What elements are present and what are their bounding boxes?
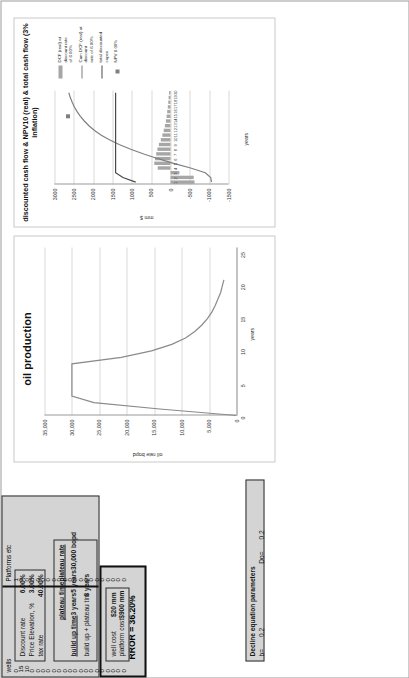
table-cell[interactable]: 0 <box>77 496 82 581</box>
x-axis-tick: 1 <box>172 181 177 183</box>
table-cell[interactable]: 0 <box>66 496 71 581</box>
x-axis-tick: 10 <box>172 137 177 141</box>
decline-do-value[interactable]: 0.2 <box>257 530 264 539</box>
table-cell[interactable]: 0 <box>82 496 87 581</box>
legend-item: DCF (real) at discount rate of 6.00% <box>56 20 73 78</box>
table-cell[interactable]: 0 <box>61 587 66 672</box>
x-axis-tick: 4 <box>172 167 177 169</box>
table-cell[interactable]: 0 <box>82 587 87 672</box>
x-axis-label: years <box>242 132 248 145</box>
rotated-spreadsheet-canvas: Discount rate 6.00% Price Elevation, % 3… <box>0 0 409 678</box>
table-cell[interactable]: 0 <box>87 587 92 672</box>
legend-swatch-line2 <box>98 65 105 78</box>
table-column-wells: wells 01510000000000000000000 <box>2 585 98 676</box>
oil-rate-series <box>14 234 276 461</box>
legend-label: total discounted capex <box>97 20 108 62</box>
cashflow-chart-plot: 300025002000150010005000-500-1000-1500mm… <box>14 18 274 226</box>
table-cell[interactable]: 0 <box>55 496 60 581</box>
x-axis-tick: 8 <box>172 149 177 151</box>
table-cell[interactable]: 0 <box>93 496 98 581</box>
table-cell[interactable]: 0 <box>114 496 119 581</box>
table-cell[interactable]: 0 <box>44 587 49 672</box>
oil-production-chart[interactable]: oil production 35,00030,00025,00020,0001… <box>13 235 275 462</box>
x-axis-tick: 12 <box>172 128 177 132</box>
table-cell[interactable]: 0 <box>87 496 92 581</box>
table-cell[interactable]: 0 <box>28 496 33 581</box>
table-cell[interactable]: 0 <box>120 587 125 672</box>
table-cell[interactable]: 0 <box>17 496 22 581</box>
table-cell[interactable]: 15 <box>17 587 22 672</box>
table-cell[interactable]: 0 <box>120 496 125 581</box>
table-cell[interactable]: 0 <box>39 587 44 672</box>
x-axis-tick: 18 <box>172 99 177 103</box>
decline-b-label: b= <box>257 648 264 656</box>
table-cell[interactable]: 0 <box>66 587 71 672</box>
x-axis-tick: 11 <box>172 133 177 137</box>
x-axis-tick: 3 <box>172 172 177 174</box>
x-axis-tick: 15 <box>172 113 177 117</box>
x-axis-tick: 7 <box>172 153 177 155</box>
spreadsheet-sheet: Discount rate 6.00% Price Elevation, % 3… <box>1 1 408 677</box>
table-cell[interactable]: 0 <box>109 587 114 672</box>
legend-swatch-bar <box>58 65 62 78</box>
legend-item: total discounted capex <box>97 20 108 78</box>
table-cell[interactable]: 0 <box>93 587 98 672</box>
cashflow-chart[interactable]: discounted cash flow & NPV10 (real) & to… <box>13 17 275 227</box>
screenshot-page: Discount rate 6.00% Price Elevation, % 3… <box>0 0 409 678</box>
decline-title: Decline equation parameters <box>248 484 255 656</box>
column-header-platforms: Platforms etc <box>2 496 11 585</box>
table-cell[interactable]: 10 <box>23 587 28 672</box>
table-cell[interactable]: 0 <box>28 587 33 672</box>
x-axis-tick: 14 <box>172 118 177 122</box>
table-cell[interactable]: 0 <box>12 587 17 672</box>
table-cell[interactable]: 0 <box>104 496 109 581</box>
table-cell[interactable]: 1 <box>12 496 17 581</box>
table-cell[interactable]: 0 <box>109 496 114 581</box>
table-cell[interactable]: 0 <box>34 496 39 581</box>
x-axis-tick: 13 <box>172 123 177 127</box>
table-cell[interactable]: 0 <box>50 496 55 581</box>
column-header-wells: wells <box>2 587 11 676</box>
table-cell[interactable]: 0 <box>114 587 119 672</box>
legend-label: DCF (real) at discount rate of 6.00% <box>56 20 73 62</box>
table-cell[interactable]: 0 <box>71 587 76 672</box>
cashflow-series-group <box>14 16 276 226</box>
x-axis-tick: 17 <box>172 104 177 108</box>
wells-platforms-table[interactable]: wells 01510000000000000000000 Platforms … <box>1 495 99 677</box>
table-cell[interactable]: 0 <box>44 496 49 581</box>
platforms-cell-list[interactable]: 100000000000000000000 <box>12 496 125 585</box>
table-cell[interactable]: 0 <box>98 496 103 581</box>
table-cell[interactable]: 0 <box>23 496 28 581</box>
x-axis-tick: 20 <box>172 90 177 94</box>
cashflow-chart-legend: DCF (real) at discount rate of 6.00%Cum … <box>56 20 124 78</box>
table-cell[interactable]: 0 <box>98 587 103 672</box>
legend-label: NPV 6.00% <box>112 39 118 62</box>
legend-item: Cum DCF (real) at discount rate of 6.00% <box>77 20 94 78</box>
table-cell[interactable]: 0 <box>34 587 39 672</box>
decline-equation-box[interactable]: Decline equation parameters b= 0.2 Do= 0… <box>245 479 264 661</box>
wells-cell-list[interactable]: 01510000000000000000000 <box>12 587 125 676</box>
table-cell[interactable]: 0 <box>104 587 109 672</box>
x-axis-tick: 9 <box>172 144 177 146</box>
table-cell[interactable]: 0 <box>39 496 44 581</box>
legend-swatch-point <box>113 65 120 78</box>
table-cell[interactable]: 0 <box>71 496 76 581</box>
decline-params-row: b= 0.2 Do= 0.2 <box>257 484 264 656</box>
table-cell[interactable]: 0 <box>77 587 82 672</box>
decline-do-label: Do= <box>257 551 264 563</box>
x-axis-tick: 16 <box>172 109 177 113</box>
oil-chart-plot: 35,00030,00025,00020,00015,00010,0005,00… <box>14 236 274 461</box>
table-cell[interactable]: 0 <box>55 587 60 672</box>
x-axis-tick: 19 <box>172 95 177 99</box>
x-axis-tick: 6 <box>172 158 177 160</box>
legend-label: Cum DCF (real) at discount rate of 6.00% <box>77 20 94 62</box>
decline-b-value[interactable]: 0.2 <box>257 627 264 636</box>
legend-item: NPV 6.00% <box>112 20 120 78</box>
x-axis-tick: 2 <box>172 177 177 179</box>
x-axis-tick: 5 <box>172 163 177 165</box>
table-column-platforms: Platforms etc 100000000000000000000 <box>2 496 98 585</box>
table-cell[interactable]: 0 <box>61 496 66 581</box>
legend-swatch-line1 <box>78 65 85 78</box>
table-cell[interactable]: 0 <box>50 587 55 672</box>
